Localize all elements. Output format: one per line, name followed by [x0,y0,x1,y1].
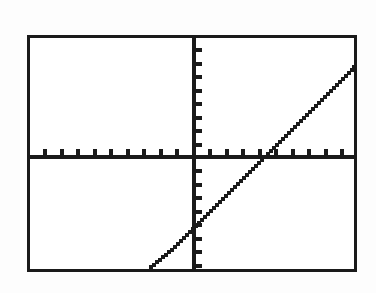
calculator-screen-frame [27,35,357,272]
plot-surface[interactable] [30,38,354,269]
calculator-screenshot [0,0,376,293]
graph-plot [30,38,354,269]
function-plot-line [149,59,354,269]
y-axis-line [192,38,196,269]
